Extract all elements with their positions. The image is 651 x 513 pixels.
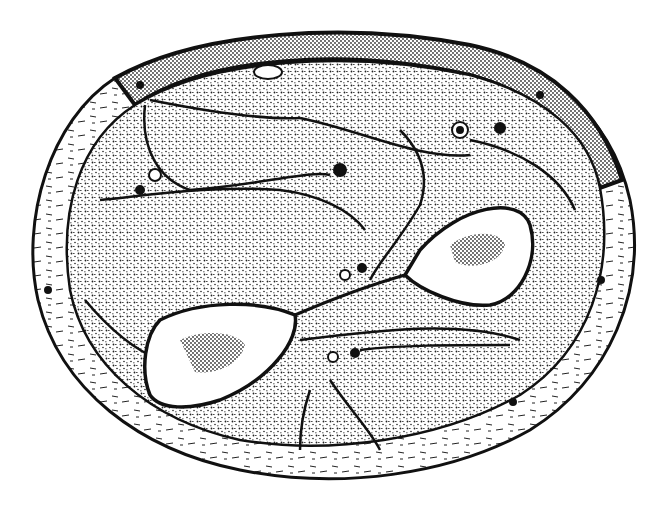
forearm-cross-section-diagram bbox=[0, 0, 651, 513]
